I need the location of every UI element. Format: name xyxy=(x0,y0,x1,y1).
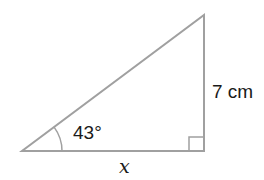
angle-label: 43° xyxy=(73,122,102,143)
adjacent-side-label: x xyxy=(119,155,130,177)
right-triangle xyxy=(22,15,204,151)
opposite-side-label: 7 cm xyxy=(212,81,253,102)
right-angle-marker xyxy=(189,137,204,151)
angle-arc xyxy=(54,127,62,151)
triangle-diagram: 43° 7 cm x xyxy=(0,0,264,180)
